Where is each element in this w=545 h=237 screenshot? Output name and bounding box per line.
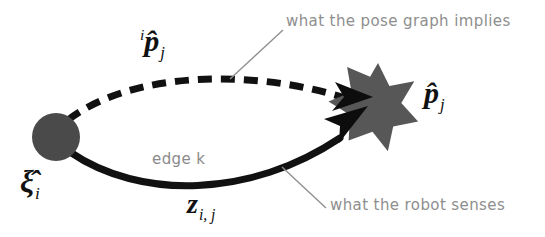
- label-pose-variable: ξ̂i: [20, 166, 40, 203]
- label-pose-base: ξ̂: [20, 164, 34, 199]
- label-measurement-base: z: [187, 188, 198, 219]
- label-implied-base: p̂: [144, 24, 159, 57]
- label-landmark-subscript: j: [440, 95, 445, 114]
- pose-graph-figure: ip̂j p̂j ξ̂i zi, j what the pose graph i…: [0, 0, 545, 237]
- implied-edge-curve: [68, 79, 345, 120]
- annotation-edge-k: edge k: [152, 152, 205, 167]
- label-measurement-subscript: i, j: [199, 206, 216, 223]
- label-measurement-variable: zi, j: [187, 190, 215, 222]
- label-implied-position: ip̂j: [140, 26, 165, 62]
- label-landmark-position: p̂j: [424, 78, 445, 114]
- label-implied-subscript: j: [160, 43, 165, 62]
- annotation-robot-senses: what the robot senses: [330, 198, 505, 213]
- label-landmark-base: p̂: [424, 76, 439, 109]
- pose-graph-leader-line: [230, 30, 283, 79]
- label-pose-subscript: i: [35, 184, 40, 203]
- robot-senses-leader-line: [282, 167, 326, 208]
- annotation-pose-graph-implies: what the pose graph implies: [286, 14, 511, 29]
- pose-node-circle: [32, 113, 80, 161]
